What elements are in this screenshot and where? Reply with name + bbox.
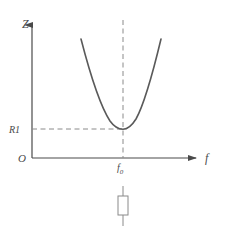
impedance-frequency-figure: Z f O R1 f0 [0, 0, 233, 232]
origin-label: O [18, 152, 26, 164]
resistor-body [118, 196, 128, 215]
x-axis-label: f [205, 151, 210, 165]
resistor-symbol [118, 186, 128, 226]
r1-label: R1 [8, 124, 20, 135]
impedance-curve [81, 39, 161, 129]
f0-label-subscript: 0 [120, 168, 124, 176]
f0-label: f0 [117, 162, 124, 176]
chart-canvas: Z f O R1 f0 [0, 0, 233, 232]
y-axis-label: Z [22, 17, 29, 31]
